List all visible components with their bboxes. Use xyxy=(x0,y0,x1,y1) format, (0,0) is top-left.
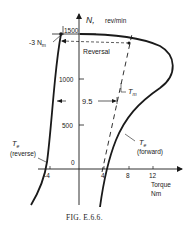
y-tick-label-1000: 1000 xyxy=(59,76,74,83)
te-forward-symbol: Te xyxy=(139,138,147,148)
y-tick-label-1500: 1500 xyxy=(64,27,79,34)
reversal-start-point xyxy=(127,41,130,44)
minus-3nm-label: -3 Nm xyxy=(29,39,46,48)
x-tick-label-8: 8 xyxy=(126,172,130,179)
x-axis-label-unit: Nm xyxy=(151,190,161,197)
te-reverse-label-group: Te (reverse) xyxy=(10,139,46,162)
x-axis-label-torque: Torque xyxy=(151,181,171,189)
te-forward-text: (forward) xyxy=(137,148,163,156)
reversal-arrow xyxy=(62,41,129,43)
y-axis-symbol: N, xyxy=(86,15,95,25)
dimension-label: 9.5 xyxy=(82,97,92,106)
x-tick-label-12: 12 xyxy=(149,172,157,179)
reversal-label: Reversal xyxy=(83,48,110,55)
dimension-9-5: 9.5 xyxy=(57,97,117,106)
y-zero-label: 0 xyxy=(71,159,75,166)
te-reverse-symbol: Te xyxy=(12,139,20,149)
te-forward-label-group: Te (forward) xyxy=(125,134,163,156)
torque-speed-diagram: N, rev/min 1500 1000 500 0 -4 4 8 12 Tor… xyxy=(0,0,189,229)
y-axis-unit: rev/min xyxy=(105,17,127,24)
tm-label-group: Tm xyxy=(121,83,137,97)
te-reverse-text: (reverse) xyxy=(10,150,36,158)
tm-label: Tm xyxy=(128,87,137,97)
y-tick-label-500: 500 xyxy=(62,122,73,129)
x-axis: -4 4 8 12 Torque Nm xyxy=(38,166,182,197)
te-reverse-curve xyxy=(31,34,61,205)
figure-caption: FIG. E.6.6. xyxy=(66,213,103,222)
